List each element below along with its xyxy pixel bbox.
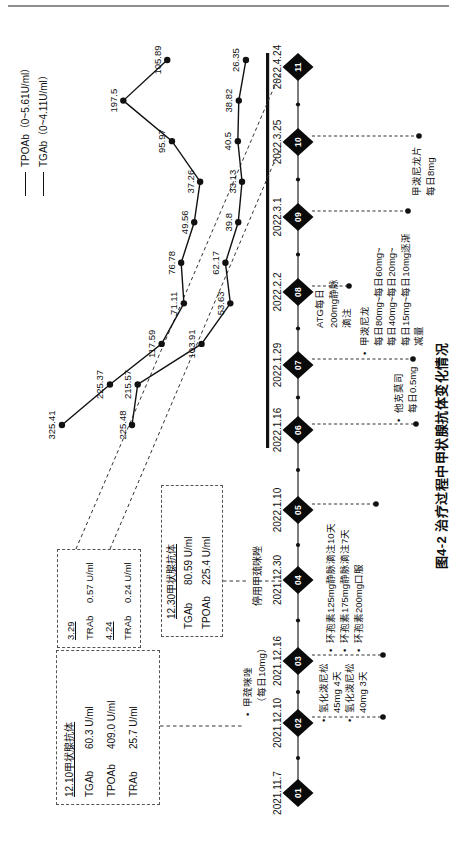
tgab-point-label: 39.8 xyxy=(223,213,234,232)
medication-block-methimazole: •甲巯咪唑（每日10mg） xyxy=(241,643,269,716)
chart-legend: TPOAb（0~5.61U/ml） TGAb（0~4.11U/ml） xyxy=(17,63,52,196)
medication-line: 滴注 xyxy=(340,279,354,328)
tpoab-point xyxy=(107,381,113,387)
chart-x-axis xyxy=(266,53,269,448)
medication-line: 每日80mg~每日60mg~ xyxy=(372,233,386,346)
legend-label: TGAb（0~4.11U/ml） xyxy=(38,70,49,167)
tgab-point-label: 215.57 xyxy=(122,370,133,399)
callout-labs-12.10: 12.10甲状腺抗体 TGAb60.3 U/ml TPOAb409.0 U/ml… xyxy=(56,650,160,805)
tgab-point xyxy=(235,138,241,144)
tpoab-point xyxy=(164,57,170,63)
tgab-point xyxy=(235,219,241,225)
figure-page: 012021.11.7022021.12.10032021.12.1604202… xyxy=(0,0,457,846)
medication-block-hydroprednisone: •氢化泼尼松45mg 4天•氢化泼尼松40mg 3天 xyxy=(317,663,369,722)
chain-midpoint-dot xyxy=(296,543,300,547)
leader-end-dot xyxy=(416,133,422,139)
medication-line: 减量 xyxy=(412,233,426,346)
medication-line: 40mg 3天 xyxy=(356,663,369,713)
tgab-point xyxy=(239,179,245,185)
callout-title: 12.30甲状腺抗体 xyxy=(164,486,180,619)
diamond-number: 11 xyxy=(293,62,303,72)
timeline-date: 2022.1.16 xyxy=(272,407,283,452)
timeline-date: 2022.3.1 xyxy=(272,197,283,236)
lab-row: TPOAb409.0 U/ml xyxy=(101,651,123,797)
legend-item-tgab: TGAb（0~4.11U/ml） xyxy=(35,63,53,196)
leader-end-dot xyxy=(380,714,386,720)
diamond-number: 03 xyxy=(293,656,303,666)
callout-labs-12.30: 12.30甲状腺抗体 TGAb80.59 U/ml TPOAb225.4 U/m… xyxy=(161,485,223,637)
medication-line: 45mg 4天 xyxy=(330,663,343,713)
chain-midpoint-dot xyxy=(296,690,300,694)
lab-row: TRAb0.57 U/ml xyxy=(80,550,99,640)
lab-row: TRAb25.7 U/ml xyxy=(123,651,145,797)
tpoab-point-label: 225.37 xyxy=(94,370,105,399)
callout-trab-followup: 3.29 TRAb0.57 U/ml 4.24 TRAb0.24 U/ml xyxy=(57,549,141,648)
tpoab-point xyxy=(120,97,126,103)
tpoab-point-label: 49.56 xyxy=(179,210,190,234)
tgab-line xyxy=(132,60,246,425)
tgab-point-label: 53.63 xyxy=(215,291,226,315)
medication-line: •甲泼尼龙 xyxy=(358,233,372,346)
leader-end-dot xyxy=(405,208,411,214)
tpoab-point-label: 325.41 xyxy=(46,410,57,439)
tgab-point xyxy=(134,381,140,387)
tpoab-point-label: 76.78 xyxy=(166,251,177,275)
medication-line: 甲泼尼龙片 xyxy=(410,146,424,196)
diamond-number: 04 xyxy=(293,575,303,585)
diamond-number: 09 xyxy=(293,212,303,222)
lab-row: TRAb0.24 U/ml xyxy=(118,550,137,640)
medication-line: •环孢素125mg静脉滴注10天 xyxy=(324,523,338,643)
medication-line: 每日15mg~每日10mg逐渐 xyxy=(399,233,413,346)
rotated-figure: 012021.11.7022021.12.10032021.12.1604202… xyxy=(0,0,457,846)
tpoab-point xyxy=(191,219,197,225)
medication-line: •氢化泼尼松 xyxy=(343,663,356,713)
tgab-point-label: 225.48 xyxy=(117,410,128,439)
diamond-number: 05 xyxy=(293,505,303,515)
leader-end-dot xyxy=(413,421,419,427)
tgab-point-label: 62.17 xyxy=(210,251,221,275)
bullet-marker: • xyxy=(338,649,352,652)
medication-line: 每日40mg~每日20mg~ xyxy=(385,233,399,346)
chain-midpoint-dot xyxy=(296,468,300,472)
figure-caption: 图4-2 治疗过程中甲状腺抗体变化情况 xyxy=(431,239,450,673)
leader-end-dot xyxy=(410,356,416,362)
timeline-date: 2022.1.10 xyxy=(272,487,283,532)
tgab-point xyxy=(236,97,242,103)
medication-line: 每日8mg xyxy=(424,146,438,196)
timeline-date: 2021.11.7 xyxy=(272,771,283,815)
stop-methimazole-note: 停用甲巯咪唑 xyxy=(249,546,264,606)
leader-end-dot xyxy=(380,652,386,658)
tpoab-point xyxy=(158,341,164,347)
lab-row: 3.29 xyxy=(61,550,80,640)
chain-midpoint-dot xyxy=(296,177,300,181)
medication-line: •甲巯咪唑 xyxy=(241,643,255,707)
tpoab-point-label: 71.11 xyxy=(168,292,179,315)
timeline-date: 2021.12.10 xyxy=(272,698,283,748)
bullet-marker: • xyxy=(324,649,338,652)
tgab-point xyxy=(222,260,228,266)
medication-block-methylprednisolone-tablets: 甲泼尼龙片每日8mg xyxy=(410,146,437,196)
lab-row: TPOAb225.4 U/ml xyxy=(198,486,216,629)
diamond-number: 02 xyxy=(293,718,303,728)
tpoab-point-label: 95.97 xyxy=(156,129,167,153)
lab-row: 4.24 xyxy=(99,550,118,640)
chain-midpoint-dot xyxy=(296,102,300,106)
tpoab-point-label: 105.89 xyxy=(152,46,163,75)
tpoab-point xyxy=(169,138,175,144)
tpoab-point xyxy=(197,179,203,185)
diamond-number: 01 xyxy=(293,788,303,798)
lab-row: TGAb80.59 U/ml xyxy=(180,486,198,629)
tpoab-point xyxy=(178,260,184,266)
timeline-date: 2022.1.29 xyxy=(272,342,283,387)
medication-block-methylprednisolone: •甲泼尼龙每日80mg~每日60mg~每日40mg~每日20mg~每日15mg~… xyxy=(358,233,426,355)
tgab-point xyxy=(198,341,204,347)
chain-midpoint-dot xyxy=(296,756,300,760)
timeline-date: 2021.12.16 xyxy=(272,636,283,686)
tpoab-point xyxy=(59,422,65,428)
tpoab-point xyxy=(181,300,187,306)
legend-label: TPOAb（0~5.61U/ml） xyxy=(20,63,31,167)
medication-line: •环孢素200mg口服 xyxy=(352,523,366,643)
chain-midpoint-dot xyxy=(296,395,300,399)
tpoab-point-label: 197.5 xyxy=(108,89,119,113)
bullet-marker: • xyxy=(343,719,356,722)
